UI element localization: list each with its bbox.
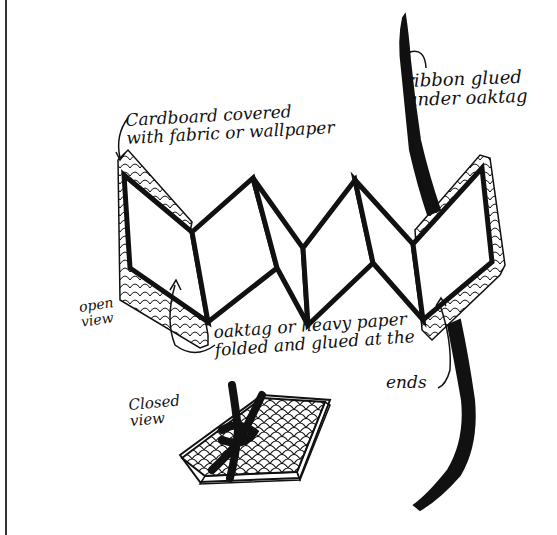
label-closed-view: Closed view: [128, 394, 182, 430]
label-ribbon-line2: under oaktag: [406, 85, 528, 110]
label-closed-line2: view: [129, 409, 165, 430]
ribbon-bottom: [414, 320, 475, 510]
label-oaktag-ends: ends: [386, 374, 427, 392]
ribbon-top: [400, 15, 440, 215]
label-ribbon-glued: ribbon glued under oaktag: [405, 68, 528, 110]
closed-book: [180, 385, 330, 484]
label-open-view: open view: [78, 295, 116, 329]
accordion-folded-oaktag: [124, 168, 492, 325]
